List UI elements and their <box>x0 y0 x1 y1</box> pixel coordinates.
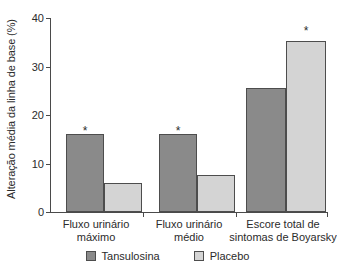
y-tick-label: 0 <box>38 206 44 218</box>
significance-star-tansulosina-fluxo-maximo: * <box>83 126 88 136</box>
x-category-label-fluxo-maximo: Fluxo urinário máximo <box>63 218 130 244</box>
y-tick-label: 30 <box>32 61 44 73</box>
y-tick-label: 20 <box>32 109 44 121</box>
bar-tansulosina-fluxo-medio <box>159 134 197 212</box>
significance-star-tansulosina-fluxo-medio: * <box>176 126 181 136</box>
significance-star-placebo-escore-boyarsky: * <box>304 26 309 36</box>
y-tick-mark <box>46 67 50 68</box>
x-category-label-fluxo-medio: Fluxo urinário médio <box>156 218 223 244</box>
y-tick-mark <box>46 115 50 116</box>
x-axis-group-separator <box>236 212 237 217</box>
bar-tansulosina-fluxo-maximo <box>66 134 104 212</box>
x-category-line-2: sintomas de Boyarsky <box>229 231 337 244</box>
legend-swatch-icon-tansulosina <box>86 251 96 261</box>
y-axis-label: Alteração média da linha de base (%) <box>2 2 20 216</box>
chart-legend: Tansulosina Placebo <box>0 250 335 262</box>
legend-item-tansulosina: Tansulosina <box>86 250 160 262</box>
bar-placebo-fluxo-medio <box>197 175 235 212</box>
y-tick-mark <box>46 164 50 165</box>
bar-placebo-fluxo-maximo <box>104 183 142 212</box>
x-category-label-escore-boyarsky: Escore total de sintomas de Boyarsky <box>229 218 337 244</box>
x-category-line-2: médio <box>156 231 223 244</box>
y-tick-label: 40 <box>32 12 44 24</box>
x-category-line-1: Fluxo urinário <box>156 218 223 231</box>
x-axis-group-separator <box>327 212 328 217</box>
y-tick-mark <box>46 212 50 213</box>
bar-tansulosina-escore-boyarsky <box>246 88 286 212</box>
x-category-line-1: Escore total de <box>229 218 337 231</box>
legend-label-tansulosina: Tansulosina <box>102 250 160 262</box>
legend-item-placebo: Placebo <box>194 250 250 262</box>
x-category-line-2: máximo <box>63 231 130 244</box>
y-tick-label: 10 <box>32 158 44 170</box>
plot-area: 0 10 20 30 40 * * * <box>50 18 328 212</box>
y-tick-mark <box>46 18 50 19</box>
legend-swatch-icon-placebo <box>194 251 204 261</box>
x-axis-line <box>50 212 328 213</box>
x-category-line-1: Fluxo urinário <box>63 218 130 231</box>
bar-placebo-escore-boyarsky <box>286 41 326 212</box>
x-axis-group-separator <box>143 212 144 217</box>
y-axis-line <box>50 18 51 212</box>
legend-label-placebo: Placebo <box>210 250 250 262</box>
